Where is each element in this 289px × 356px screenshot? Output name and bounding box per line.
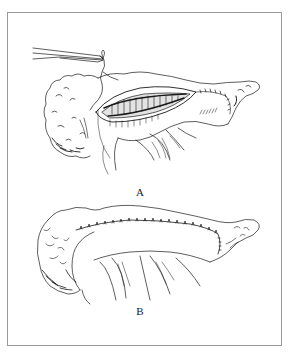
panel-label-a: A	[130, 186, 150, 198]
forceps-icon	[33, 48, 103, 62]
panel-label-b: B	[130, 305, 150, 317]
panel-a-drawing	[33, 48, 260, 174]
panel-b-drawing	[37, 205, 259, 304]
surgical-illustration	[0, 0, 289, 356]
opened-duct	[96, 87, 196, 127]
